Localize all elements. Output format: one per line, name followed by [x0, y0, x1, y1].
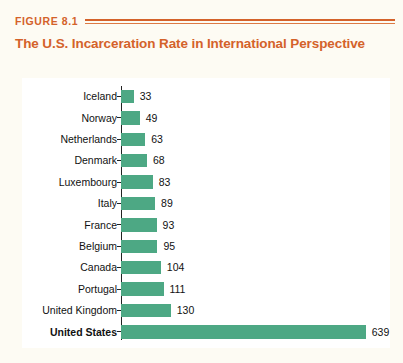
bar-category-label: Iceland	[22, 91, 117, 102]
figure-header: FIGURE 8.1	[15, 13, 395, 29]
figure-label: FIGURE 8.1	[15, 15, 78, 27]
bar	[121, 90, 134, 104]
bar	[121, 325, 366, 339]
bar	[121, 154, 147, 168]
bar	[121, 218, 157, 232]
header-rule-bottom	[85, 23, 395, 25]
bar-row: Canada104	[22, 257, 390, 278]
bar-row: Luxembourg83	[22, 172, 390, 193]
bar-value-label: 89	[161, 198, 173, 209]
bar-value-label: 33	[140, 91, 152, 102]
bar-row: Norway49	[22, 107, 390, 128]
bar	[121, 282, 164, 296]
chart-panel: Iceland33Norway49Netherlands63Denmark68L…	[22, 78, 390, 348]
bar-row: Netherlands63	[22, 129, 390, 150]
bar-row: Portugal111	[22, 279, 390, 300]
bar-value-label: 83	[159, 177, 171, 188]
bar	[121, 261, 161, 275]
header-rules	[85, 18, 395, 25]
bar	[121, 175, 153, 189]
bar-category-label: Luxembourg	[22, 177, 117, 188]
bar-category-label: Canada	[22, 262, 117, 273]
bar	[121, 240, 157, 254]
bar	[121, 133, 145, 147]
bar	[121, 197, 155, 211]
bar-value-label: 49	[146, 113, 158, 124]
bar-category-label: Denmark	[22, 155, 117, 166]
bar-chart-plot: Iceland33Norway49Netherlands63Denmark68L…	[22, 78, 390, 348]
bar-category-label: Norway	[22, 113, 117, 124]
bar-category-label: Belgium	[22, 241, 117, 252]
bar-category-label: Italy	[22, 198, 117, 209]
bar-row: United States639	[22, 321, 390, 342]
bar-value-label: 639	[372, 327, 390, 338]
bar-value-label: 68	[153, 155, 165, 166]
bar	[121, 111, 140, 125]
bar-value-label: 93	[163, 220, 175, 231]
bar	[121, 304, 171, 318]
bar-row: Italy89	[22, 193, 390, 214]
bar-category-label: France	[22, 220, 117, 231]
bar-value-label: 130	[177, 305, 195, 316]
bar-row: United Kingdom130	[22, 300, 390, 321]
header-rule-top	[85, 19, 395, 21]
bar-row: France93	[22, 214, 390, 235]
bar-value-label: 111	[170, 284, 186, 295]
bar-category-label: United Kingdom	[22, 305, 117, 316]
bar-row: Denmark68	[22, 150, 390, 171]
bar-value-label: 63	[151, 134, 163, 145]
bar-row: Iceland33	[22, 86, 390, 107]
bar-category-label: Portugal	[22, 284, 117, 295]
bar-row: Belgium95	[22, 236, 390, 257]
chart-title: The U.S. Incarceration Rate in Internati…	[15, 36, 393, 51]
bar-category-label: Netherlands	[22, 134, 117, 145]
bar-value-label: 95	[163, 241, 175, 252]
bar-category-label: United States	[22, 327, 117, 338]
bar-value-label: 104	[167, 262, 185, 273]
